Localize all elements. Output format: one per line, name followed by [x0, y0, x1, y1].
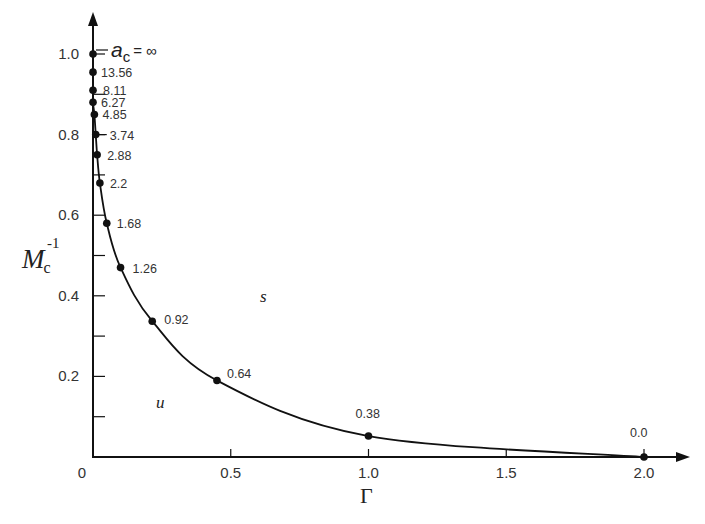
point-label: 1.26 [133, 262, 157, 276]
point-label: 0.38 [356, 407, 380, 421]
y-tick-label: 1.0 [58, 45, 79, 62]
data-points [89, 50, 648, 461]
chart-canvas: 00.51.01.52.00.20.40.60.81.0 13.568.116.… [0, 0, 705, 524]
critical-curve [93, 54, 644, 457]
point-label: 0.0 [630, 426, 647, 440]
region-u-label: u [156, 393, 165, 412]
data-point [213, 377, 221, 385]
y-tick-label: 0.6 [58, 206, 79, 223]
point-label: 0.64 [227, 367, 251, 381]
axes [92, 22, 680, 457]
ac-eq: = ∞ [133, 42, 157, 59]
data-point [640, 453, 648, 461]
y-tick-label: 0.4 [58, 287, 79, 304]
point-label: 13.56 [101, 66, 132, 80]
point-label: 2.2 [110, 177, 127, 191]
point-label: 0.92 [164, 313, 188, 327]
y-label-main: M [21, 244, 46, 274]
x-tick-label: 0.5 [220, 464, 241, 481]
region-s-label: s [260, 287, 267, 306]
x-axis-arrow-icon [676, 452, 690, 462]
y-tick-label: 0.8 [58, 126, 79, 143]
data-point [117, 264, 125, 272]
data-point [89, 50, 97, 58]
tick-marks [93, 54, 644, 457]
point-labels: 13.568.116.274.853.742.882.21.681.260.92… [98, 66, 648, 440]
point-label: 4.85 [102, 108, 126, 122]
point-label: 1.68 [117, 217, 141, 231]
x-tick-label: 2.0 [634, 464, 655, 481]
data-point [93, 151, 101, 159]
x-axis-label: Γ [360, 483, 373, 508]
data-point [91, 111, 99, 119]
x-tick-label: 1.5 [496, 464, 517, 481]
data-point [148, 317, 156, 325]
data-point [89, 99, 97, 107]
ac-main: a [111, 38, 123, 61]
data-point [365, 432, 373, 440]
y-axis-label-sup: -1 [47, 235, 60, 251]
point-label: 2.88 [107, 149, 131, 163]
ac-annotation: ac= ∞ [111, 38, 157, 65]
data-point [96, 179, 104, 187]
data-point [89, 68, 97, 76]
point-label: 3.74 [110, 129, 134, 143]
data-point [89, 86, 97, 94]
y-axis-arrow-icon [88, 12, 98, 26]
data-point [103, 219, 111, 227]
y-label-sub: c [44, 259, 51, 276]
ac-sub: c [123, 48, 131, 65]
x-tick-label: 0 [78, 464, 86, 481]
y-tick-label: 0.2 [58, 367, 79, 384]
x-tick-label: 1.0 [358, 464, 379, 481]
